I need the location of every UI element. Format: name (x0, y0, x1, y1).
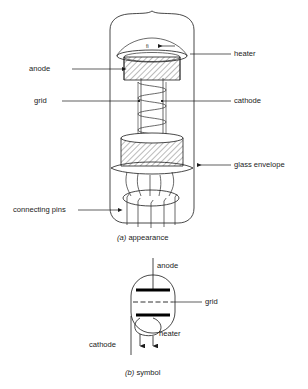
symbol-label-heater: heater (159, 329, 181, 338)
symbol-heater (135, 318, 161, 346)
caption-a-prefix: (a) (117, 233, 127, 242)
symbol-label-cathode: cathode (89, 340, 116, 349)
glass-envelope-outline (110, 11, 194, 223)
caption-b-prefix: (b) (125, 368, 135, 377)
label-anode: anode (29, 64, 50, 73)
heater-pointer-inner: fi (146, 43, 175, 49)
label-heater: heater (234, 49, 256, 58)
label-glass-envelope: glass envelope (234, 160, 285, 169)
callout-connecting-pins[interactable]: connecting pins (13, 205, 118, 214)
label-grid: grid (34, 96, 47, 105)
symbol-drawing: anode grid heater cathode (b) symbol (89, 258, 218, 377)
caption-symbol: (b) symbol (125, 368, 161, 377)
valve-diagram: fi anode grid heater cathode glas (0, 0, 308, 389)
anode-block (124, 53, 180, 81)
heater-inner-mark: fi (146, 43, 149, 49)
symbol-callout-anode[interactable]: anode (157, 261, 178, 270)
symbol-label-anode: anode (157, 261, 178, 270)
callout-anode[interactable]: anode (29, 64, 122, 73)
appearance-drawing: fi anode grid heater cathode glas (13, 11, 285, 242)
callout-grid[interactable]: grid (34, 96, 139, 105)
internal-lead-wires (126, 172, 174, 196)
grid-helix (138, 82, 166, 140)
lower-electrode-block (121, 133, 183, 166)
symbol-callout-cathode[interactable]: cathode (89, 340, 116, 349)
caption-appearance: (a) appearance (117, 233, 169, 242)
callout-cathode[interactable]: cathode (162, 96, 261, 105)
caption-b-text: symbol (134, 368, 160, 377)
symbol-label-grid: grid (205, 297, 218, 306)
symbol-callout-heater[interactable]: heater (159, 329, 181, 338)
label-cathode: cathode (234, 96, 261, 105)
callout-glass-envelope[interactable]: glass envelope (197, 160, 285, 169)
symbol-callout-grid[interactable]: grid (173, 297, 218, 306)
figure-page: fi anode grid heater cathode glas (0, 0, 308, 389)
label-connecting-pins: connecting pins (13, 205, 66, 214)
caption-a-text: appearance (126, 233, 168, 242)
callout-heater[interactable]: heater (190, 49, 256, 58)
